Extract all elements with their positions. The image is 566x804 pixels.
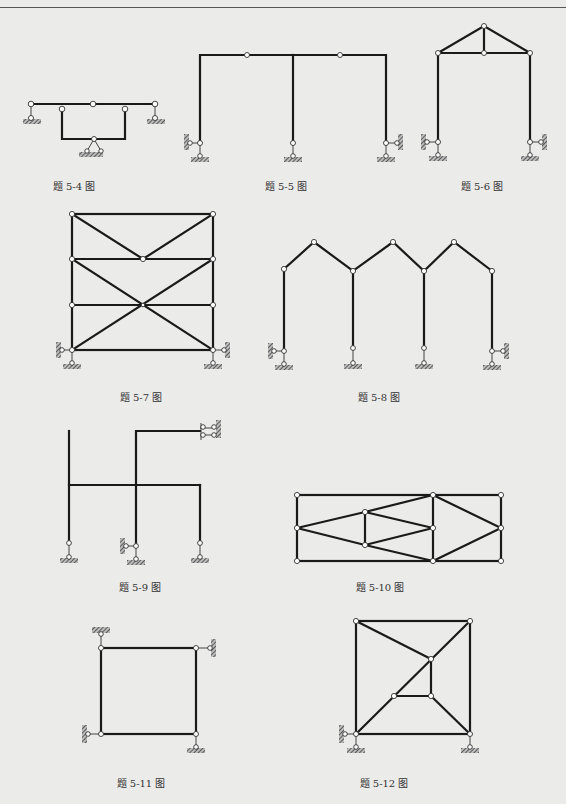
- caption-5-5: 题 5-5 图: [265, 178, 307, 193]
- textbook-page: 题 5-4 图 题 5-5 图 题 5-6 图 题 5-7 图 题 5-8 图 …: [0, 0, 566, 804]
- figure-5-10: [294, 492, 503, 563]
- figure-5-12: [339, 618, 479, 753]
- figure-5-11: [82, 627, 216, 753]
- figure-5-9: [60, 420, 221, 565]
- caption-5-10: 题 5-10 图: [356, 579, 405, 594]
- caption-5-7: 题 5-7 图: [120, 389, 162, 404]
- caption-5-6: 题 5-6 图: [461, 178, 503, 193]
- caption-5-11: 题 5-11 图: [117, 775, 166, 790]
- caption-5-12: 题 5-12 图: [360, 775, 409, 790]
- caption-5-4: 题 5-4 图: [53, 178, 95, 193]
- structural-diagrams: [0, 0, 566, 804]
- caption-5-8: 题 5-8 图: [358, 389, 400, 404]
- figure-5-4: [23, 101, 165, 157]
- caption-5-9: 题 5-9 图: [119, 579, 161, 594]
- figure-5-7: [56, 211, 230, 369]
- figure-5-5: [184, 53, 403, 163]
- figure-5-8: [268, 239, 509, 370]
- figure-5-6: [421, 24, 547, 162]
